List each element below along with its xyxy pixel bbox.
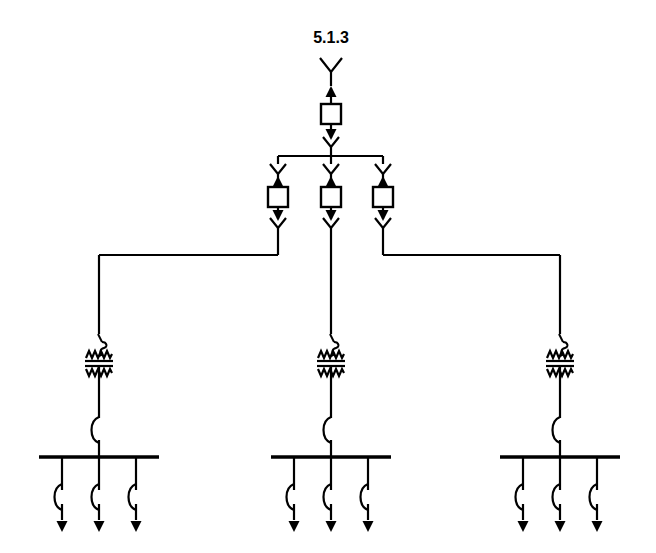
feeder-right-1 [516, 457, 529, 532]
breaker-arc-icon [287, 484, 295, 510]
branch-unit-center [321, 164, 341, 334]
breaker-arc-icon [361, 484, 369, 510]
feeder-right-2 [553, 457, 566, 532]
feeder-arrow-icon [57, 521, 68, 532]
diagram-title: 5.1.3 [313, 29, 349, 46]
feeder-group-right [500, 334, 620, 532]
breaker-arc-icon [590, 484, 598, 510]
breaker-arc-icon [129, 484, 137, 510]
branch-unit-right [373, 164, 393, 255]
feeder-arrow-icon [518, 521, 529, 532]
breaker-box-icon [321, 187, 341, 207]
feeder-center-1 [287, 457, 300, 532]
feeder-arrow-icon [131, 521, 142, 532]
feeder-left-2 [92, 457, 105, 532]
chevron-down-icon [375, 164, 391, 174]
breaker-box-icon [268, 187, 288, 207]
breaker-arc-icon [324, 417, 332, 443]
arrow-down-icon [378, 210, 389, 221]
branch-routing-left [99, 255, 278, 334]
breaker-arc-icon [553, 484, 561, 510]
chevron-down-icon [270, 164, 286, 174]
diagram-canvas: 5.1.3 [0, 0, 656, 553]
feeder-left-3 [129, 457, 142, 532]
main-breaker-unit [321, 86, 341, 156]
feeder-arrow-icon [94, 521, 105, 532]
chevron-down-icon [323, 164, 339, 174]
breaker-arc-icon [324, 484, 332, 510]
breaker-arc-icon [516, 484, 524, 510]
feeder-right-3 [590, 457, 603, 532]
breaker-arc-icon [553, 417, 561, 443]
feeder-arrow-icon [555, 521, 566, 532]
feeder-center-3 [361, 457, 374, 532]
feeder-arrow-icon [592, 521, 603, 532]
arrow-down-icon [326, 129, 337, 140]
feeder-center-2 [324, 457, 337, 532]
breaker-arc-icon [55, 484, 63, 510]
arrow-up-icon [378, 176, 389, 187]
arrow-up-icon [326, 176, 337, 187]
feeder-arrow-icon [363, 521, 374, 532]
breaker-box-icon [321, 104, 341, 124]
feeder-arrow-icon [289, 521, 300, 532]
single-line-diagram: 5.1.3 [0, 0, 656, 553]
wye-source-icon [320, 58, 342, 86]
breaker-box-icon [373, 187, 393, 207]
branch-unit-left [268, 164, 288, 255]
arrow-up-icon [273, 176, 284, 187]
branch-routing-right [383, 255, 560, 334]
feeder-left-1 [55, 457, 68, 532]
feeder-group-left [39, 334, 159, 532]
arrow-down-icon [273, 210, 284, 221]
breaker-arc-icon [92, 484, 100, 510]
arrow-up-icon [326, 86, 337, 97]
feeder-arrow-icon [326, 521, 337, 532]
arrow-down-icon [326, 210, 337, 221]
feeder-group-center [271, 334, 391, 532]
breaker-arc-icon [92, 417, 100, 443]
upper-distribution-bus [278, 156, 383, 164]
